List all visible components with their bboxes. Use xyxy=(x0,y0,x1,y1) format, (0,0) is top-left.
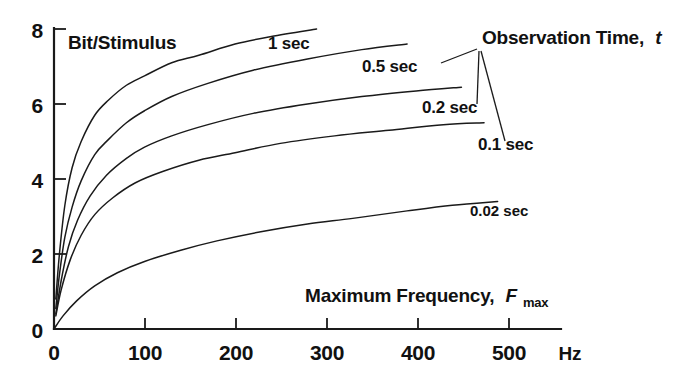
y-tick-label-2: 2 xyxy=(32,244,43,267)
chart-figure: 8 6 4 2 0 0 100 200 300 400 500 Hz Bit/S… xyxy=(0,0,679,374)
series-curve-0.2-sec xyxy=(56,87,462,314)
legend-title: Observation Time, t xyxy=(482,27,662,48)
x-axis-title-symbol-sub: max xyxy=(523,295,549,310)
y-tick-label-8: 8 xyxy=(32,19,44,42)
series-labels-group: 1 sec 0.5 sec 0.2 sec 0.1 sec 0.02 sec xyxy=(268,34,533,219)
x-ticks-group xyxy=(145,318,509,329)
legend-title-symbol: t xyxy=(655,27,662,48)
x-tick-label-200: 200 xyxy=(219,341,253,364)
x-tick-label-400: 400 xyxy=(401,341,435,364)
y-axis-title: Bit/Stimulus xyxy=(68,32,176,53)
series-label-0.2-sec: 0.2 sec xyxy=(422,98,477,117)
axes-group xyxy=(54,28,561,329)
x-axis-unit-label: Hz xyxy=(558,343,581,364)
x-tick-label-0: 0 xyxy=(48,341,59,364)
x-axis-title-main: Maximum Frequency, xyxy=(305,285,494,306)
axis-titles: Bit/Stimulus Maximum Frequency, F max xyxy=(68,32,549,310)
line-chart-canvas: 8 6 4 2 0 0 100 200 300 400 500 Hz Bit/S… xyxy=(0,0,679,374)
series-curve-0.02-sec xyxy=(54,202,498,330)
legend-group: Observation Time, t xyxy=(441,27,662,141)
leader-line-0.5-sec xyxy=(441,49,477,63)
x-axis-title: Maximum Frequency, F max xyxy=(305,285,549,310)
y-ticks-group xyxy=(54,104,66,254)
y-tick-label-0: 0 xyxy=(32,319,43,342)
x-tick-labels: 0 100 200 300 400 500 Hz xyxy=(48,341,581,364)
series-label-1-sec: 1 sec xyxy=(268,34,310,53)
y-tick-labels: 8 6 4 2 0 xyxy=(32,19,44,342)
leader-line-0.1-sec xyxy=(481,51,505,141)
series-label-0.02-sec: 0.02 sec xyxy=(470,202,528,219)
legend-title-text: Observation Time, xyxy=(482,27,644,48)
x-axis-title-symbol: F xyxy=(505,285,518,306)
series-label-0.5-sec: 0.5 sec xyxy=(362,57,417,76)
series-curve-0.5-sec xyxy=(56,44,407,308)
series-curves-group xyxy=(54,29,498,329)
y-tick-label-4: 4 xyxy=(32,169,44,192)
x-tick-label-500: 500 xyxy=(492,341,526,364)
series-label-0.1-sec: 0.1 sec xyxy=(478,135,533,154)
y-tick-label-6: 6 xyxy=(32,94,43,117)
x-tick-label-300: 300 xyxy=(310,341,344,364)
leader-line-0.2-sec xyxy=(477,51,479,104)
x-tick-label-100: 100 xyxy=(128,341,162,364)
